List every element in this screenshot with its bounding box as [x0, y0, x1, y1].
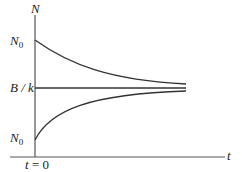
y-axis-label: N — [30, 1, 41, 16]
t-zero-label: t = 0 — [25, 157, 49, 172]
x-axis-label: t — [227, 148, 231, 163]
decaying-curve — [35, 40, 186, 84]
equilibrium-label: B / k — [10, 80, 34, 95]
growing-curve — [35, 91, 186, 140]
upper-n0-label: N0 — [9, 33, 24, 50]
lower-n0-label: N0 — [9, 130, 24, 147]
chart: N N0 B / k N0 t = 0 t — [0, 0, 242, 172]
